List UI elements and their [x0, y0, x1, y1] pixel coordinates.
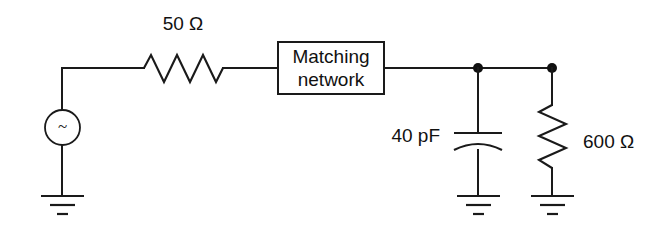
- circuit-schematic: ~ 50 Ω Matching network 40 pF: [0, 0, 672, 251]
- ac-source-tilde-icon: ~: [58, 117, 67, 136]
- matching-network-label-line2: network: [298, 69, 365, 90]
- ground-symbol-source: [41, 196, 84, 214]
- wire-source-to-resistor: [62, 68, 144, 110]
- resistor-50ohm-symbol: [144, 55, 223, 82]
- capacitor-40pf-label: 40 pF: [391, 125, 440, 146]
- resistor-600ohm-label: 600 Ω: [583, 131, 634, 152]
- circuit-diagram-canvas: ~ 50 Ω Matching network 40 pF: [0, 0, 672, 251]
- matching-network-label-line1: Matching: [292, 46, 369, 67]
- ground-symbol-load: [531, 196, 574, 214]
- ground-symbol-capacitor: [457, 196, 500, 214]
- resistor-600ohm-symbol: [539, 105, 566, 168]
- capacitor-40pf-symbol: [454, 133, 502, 150]
- resistor-50ohm-label: 50 Ω: [163, 13, 204, 34]
